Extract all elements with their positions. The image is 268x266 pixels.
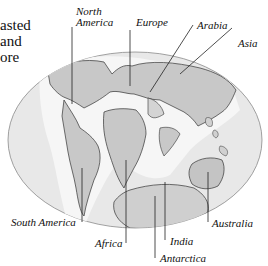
paleogeographic-map-figure: asted and ore North America Europe Arabi…: [0, 0, 268, 266]
label-south-america: South America: [11, 217, 76, 228]
label-africa: Africa: [95, 238, 123, 249]
label-north-america: North America: [76, 6, 113, 28]
caption-line-3: ore: [0, 49, 31, 65]
label-antarctica: Antarctica: [160, 253, 206, 264]
label-asia: Asia: [238, 38, 258, 49]
caption-line-2: and: [0, 33, 31, 49]
caption-fragment: asted and ore: [0, 17, 31, 65]
label-australia: Australia: [212, 218, 253, 229]
label-europe: Europe: [136, 17, 168, 28]
caption-line-1: asted: [0, 17, 31, 33]
label-america: America: [76, 17, 113, 28]
label-arabia: Arabia: [197, 20, 228, 31]
label-india: India: [170, 236, 193, 247]
